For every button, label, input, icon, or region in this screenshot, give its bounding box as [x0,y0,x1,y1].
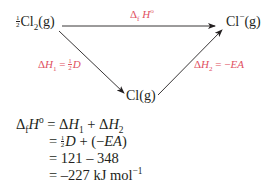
node-cl-atom-gas: Cl(g) [126,88,156,104]
equation-line-3: = 121 – 348 [49,150,119,167]
node-cl-anion-gas: Cl−(g) [226,14,261,30]
label-delta-h2: ΔH2 = −EA [194,58,244,70]
equation-line-1: ΔfHo = ΔH1 + ΔH2 [16,116,124,133]
label-formation-enthalpy: Δf Ho [130,8,154,20]
equation-line-4: = –227 kJ mol−1 [49,167,143,184]
node-half-cl2-gas: 12Cl2(g) [16,14,55,30]
label-delta-h1: ΔH1 = 12D [38,58,81,72]
equation-line-2: = 12D + (−EA) [49,133,127,150]
